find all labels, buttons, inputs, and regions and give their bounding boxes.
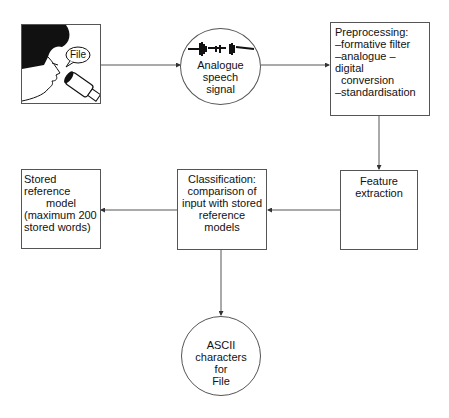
classification-label-line-3: input with stored [180, 197, 264, 209]
preprocessing-item: conversion [335, 74, 425, 86]
person-speaking-into-microphone-icon [22, 25, 100, 103]
classification-label-line-1: Classification: [180, 173, 264, 185]
feature-label-line-1: Feature [344, 175, 414, 187]
preprocessing-item: –analogue – digital [335, 50, 425, 74]
ascii-output-node: ASCII characters for File [181, 316, 261, 396]
signal-label-line-2: speech [181, 71, 260, 83]
preprocessing-item: –formative filter [335, 38, 425, 50]
feature-label-line-2: extraction [344, 187, 414, 199]
output-label-line-3: File [182, 375, 260, 387]
preprocessing-title: Preprocessing: [335, 26, 425, 38]
preprocessing-item: –standardisation [335, 86, 425, 98]
analogue-speech-signal-node: Analogue speech signal [180, 28, 261, 105]
stored-ref-line-4: stored words) [24, 221, 98, 233]
stored-ref-line-1: Stored reference [24, 173, 98, 197]
signal-label-line-3: signal [181, 83, 260, 95]
speech-bubble-text: File [70, 49, 86, 61]
stored-ref-line-3: (maximum 200 [24, 209, 98, 221]
feature-extraction-box: Feature extraction [340, 170, 418, 250]
stored-ref-line-2: model [24, 197, 98, 209]
output-label-line-2: for [182, 363, 260, 375]
classification-label-line-4: reference models [180, 209, 264, 233]
preprocessing-box: Preprocessing: –formative filter –analog… [330, 22, 430, 116]
classification-box: Classification: comparison of input with… [177, 169, 267, 250]
waveform-icon [186, 41, 256, 57]
classification-label-line-2: comparison of [180, 185, 264, 197]
speaker-box: File [21, 24, 101, 104]
signal-label-line-1: Analogue [181, 59, 260, 71]
output-label-line-1: ASCII characters [182, 339, 260, 363]
stored-reference-model-box: Stored reference model (maximum 200 stor… [21, 169, 101, 249]
